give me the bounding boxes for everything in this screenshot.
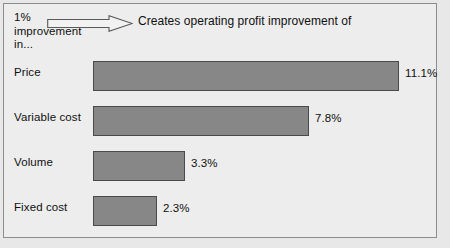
chart-header: 1% improvement in... Creates operating p… [4, 4, 436, 54]
bar-value-label: 7.8% [315, 112, 342, 124]
bar-value-label: 2.3% [163, 202, 190, 214]
bar-category-label: Volume [14, 156, 53, 168]
bar-value-label: 3.3% [191, 157, 218, 169]
chart-panel: 1% improvement in... Creates operating p… [3, 3, 437, 238]
bar-category-label: Fixed cost [14, 201, 67, 213]
bar-category-label: Variable cost [14, 111, 81, 123]
bar-chart-rows: Price 11.1% Variable cost 7.8% Volume 3.… [4, 54, 436, 239]
bar-rect [93, 196, 157, 226]
bar-rect [93, 151, 185, 181]
bar-rect [93, 106, 309, 136]
bar-rect [93, 61, 399, 91]
bar-row: Volume 3.3% [4, 144, 436, 189]
bar-row: Price 11.1% [4, 54, 436, 99]
bar-category-label: Price [14, 66, 41, 78]
right-block-arrow-icon [47, 15, 133, 32]
bar-value-label: 11.1% [405, 67, 437, 79]
header-right-caption: Creates operating profit improvement of [138, 14, 351, 28]
bar-row: Fixed cost 2.3% [4, 189, 436, 234]
bar-row: Variable cost 7.8% [4, 99, 436, 144]
screenshot-canvas: 1% improvement in... Creates operating p… [0, 0, 450, 248]
